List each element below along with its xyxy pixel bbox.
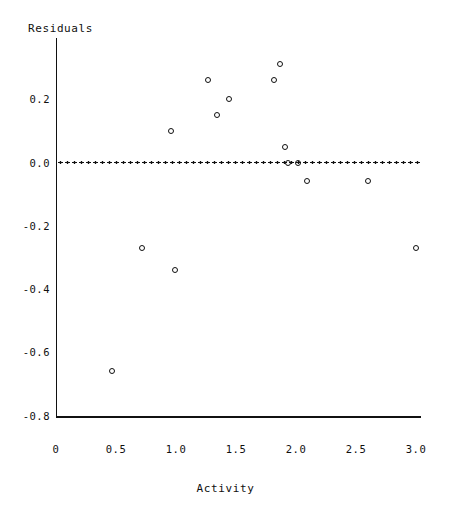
x-tick-label: 1.5 — [226, 443, 246, 455]
y-tick-label: 0.0 — [8, 157, 50, 169]
data-point — [139, 245, 145, 251]
x-tick-label: 2.5 — [346, 443, 366, 455]
data-point — [214, 112, 220, 118]
data-point — [172, 267, 178, 273]
data-point — [295, 160, 301, 166]
data-point — [205, 77, 211, 83]
zero-reference-line — [57, 161, 421, 164]
data-point — [271, 77, 277, 83]
plot-area: 0.20.0-0.2-0.4-0.6-0.8 00.51.01.52.02.53… — [0, 0, 451, 517]
y-tick-label: -0.8 — [8, 410, 50, 422]
data-point — [304, 178, 310, 184]
data-point — [365, 178, 371, 184]
x-tick-label: 1.0 — [166, 443, 186, 455]
y-tick-label: -0.6 — [8, 346, 50, 358]
data-point — [168, 128, 174, 134]
data-point — [226, 96, 232, 102]
residual-plot: Residuals 0.20.0-0.2-0.4-0.6-0.8 00.51.0… — [0, 0, 451, 517]
x-tick-label: 2.0 — [286, 443, 306, 455]
y-tick-label: -0.4 — [8, 283, 50, 295]
y-tick-label: -0.2 — [8, 220, 50, 232]
x-tick-label: 0.5 — [106, 443, 126, 455]
data-point — [277, 61, 283, 67]
x-tick-label: 3.0 — [406, 443, 426, 455]
data-point — [109, 368, 115, 374]
y-axis-line — [56, 38, 57, 418]
data-point — [413, 245, 419, 251]
data-point — [282, 144, 288, 150]
y-tick-label: 0.2 — [8, 93, 50, 105]
x-axis-line — [56, 416, 421, 418]
data-point — [285, 160, 291, 166]
x-tick-label: 0 — [53, 443, 60, 455]
x-axis-title: Activity — [0, 482, 451, 495]
